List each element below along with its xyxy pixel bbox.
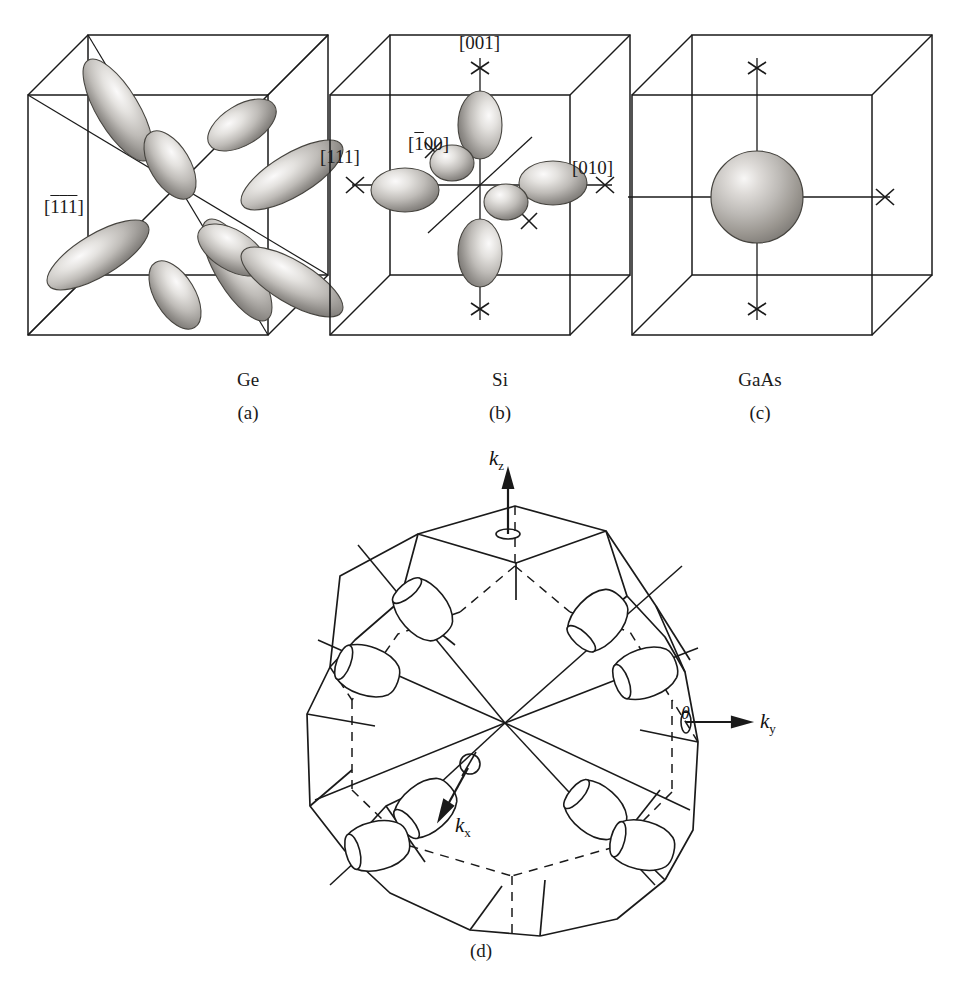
- bz-label-kz-symbol: k: [489, 446, 498, 470]
- bz-label-kx: kx: [455, 813, 471, 841]
- caption-sublabel-c: (c): [720, 402, 800, 424]
- figure-canvas: [111] [111] [001] [100] [010] Ge Si GaAs…: [0, 0, 963, 988]
- direction-label-1bar1bar1bar: [111]: [44, 196, 84, 218]
- bz-label-ky: ky: [760, 709, 776, 737]
- panel-si: [330, 35, 630, 335]
- direction-label-010: [010]: [572, 157, 613, 179]
- bz-label-ky-symbol: k: [760, 709, 769, 733]
- direction-label-111: [111]: [320, 146, 360, 168]
- caption-material-gaas: GaAs: [720, 369, 800, 391]
- bz-label-theta: θ: [681, 703, 690, 724]
- direction-label-001: [001]: [459, 32, 500, 54]
- caption-sublabel-b: (b): [470, 402, 530, 424]
- bz-label-ky-sub: y: [769, 721, 776, 736]
- gaas-valley-sphere: [711, 151, 803, 243]
- direction-label-1bar00: [100]: [408, 133, 449, 155]
- bz-label-kz-sub: z: [498, 458, 504, 473]
- caption-material-ge: Ge: [218, 369, 278, 391]
- panel-gaas: [628, 35, 932, 335]
- bz-label-kx-sub: x: [464, 825, 471, 840]
- ge-valley-ellipsoids: [37, 49, 352, 337]
- caption-sublabel-a: (a): [218, 402, 278, 424]
- caption-material-si: Si: [470, 369, 530, 391]
- panel-ge: [28, 35, 353, 338]
- si-valley-ellipsoids: [371, 91, 587, 287]
- bz-axis-arrow-kz: [503, 470, 513, 534]
- bz-label-kx-symbol: k: [455, 813, 464, 837]
- bz-label-kz: kz: [489, 446, 504, 474]
- caption-sublabel-d: (d): [451, 940, 511, 962]
- figure-svg: [0, 0, 963, 988]
